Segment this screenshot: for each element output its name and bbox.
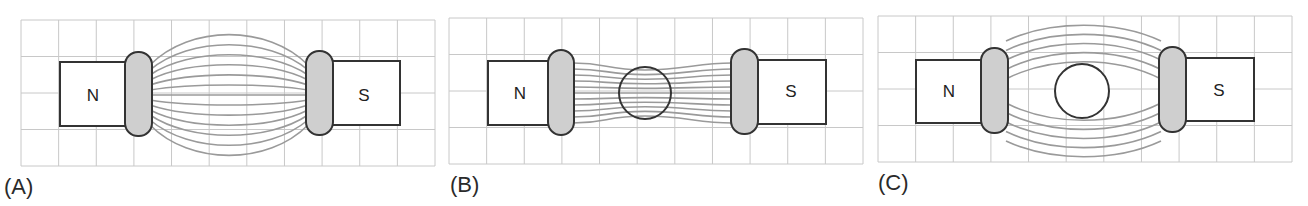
- field-line: [1006, 44, 1161, 61]
- diamagnetic-sphere: [1055, 64, 1109, 118]
- field-line: [573, 107, 732, 111]
- field-line: [573, 102, 732, 105]
- south-pole-piece: [1159, 47, 1186, 132]
- north-label: N: [943, 82, 955, 101]
- panel-label-a: (A): [4, 174, 33, 200]
- field-line: [573, 81, 732, 84]
- field-lines: [573, 63, 732, 123]
- south-pole-piece: [306, 51, 333, 135]
- panel-label-b: (B): [450, 172, 479, 198]
- north-label: N: [87, 86, 99, 105]
- panel-b: N S (B): [440, 0, 870, 206]
- field-line: [1006, 132, 1161, 148]
- field-line: [573, 75, 732, 79]
- field-line: [1006, 34, 1161, 50]
- south-pole-piece: [731, 49, 758, 134]
- panel-c: N S (C): [870, 0, 1308, 206]
- panel-b-diagram: N S: [440, 0, 870, 206]
- south-label: S: [785, 82, 796, 101]
- field-line: [1006, 25, 1161, 41]
- north-pole-piece: [548, 50, 574, 135]
- south-label: S: [358, 86, 369, 105]
- panel-label-c: (C): [878, 170, 909, 196]
- north-label: N: [514, 84, 526, 103]
- field-line: [573, 87, 732, 88]
- south-label: S: [1213, 81, 1224, 100]
- panel-c-diagram: N S: [870, 0, 1308, 206]
- field-line: [1006, 122, 1161, 139]
- north-pole-piece: [981, 48, 1008, 133]
- panel-a: N S (A): [0, 0, 440, 206]
- panel-a-diagram: N S: [0, 0, 440, 206]
- field-line: [573, 98, 732, 99]
- field-line: [1006, 141, 1161, 157]
- north-pole-piece: [125, 52, 152, 136]
